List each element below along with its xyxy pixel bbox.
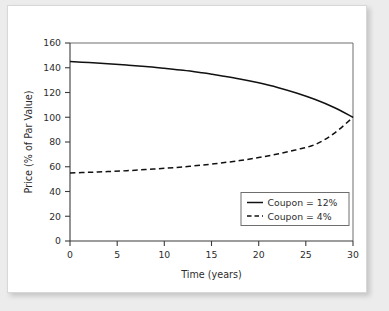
y-tick-label-160: 160 — [43, 37, 61, 48]
y-tick-label-140: 140 — [43, 62, 61, 73]
y-tick-label-20: 20 — [49, 211, 61, 222]
x-axis-title: Time (years) — [180, 269, 241, 280]
chart-legend[interactable]: Coupon = 12% Coupon = 4% — [241, 193, 349, 226]
y-tick-label-100: 100 — [43, 112, 61, 123]
x-tick-label-30: 30 — [347, 249, 359, 260]
x-tick-label-0: 0 — [67, 249, 73, 260]
y-axis-ticks — [65, 43, 70, 241]
y-axis-title: Price (% of Par Value) — [23, 91, 34, 194]
figure-card: 0 20 40 60 80 100 120 140 160 0 5 10 15 … — [7, 5, 367, 293]
x-tick-label-5: 5 — [114, 249, 120, 260]
series-line-coupon-12 — [70, 62, 353, 118]
y-tick-label-40: 40 — [49, 186, 61, 197]
x-axis-ticks — [70, 241, 353, 246]
x-tick-label-15: 15 — [206, 249, 218, 260]
series-line-coupon-4 — [70, 117, 353, 173]
y-tick-label-0: 0 — [55, 235, 61, 246]
legend-label-coupon-4: Coupon = 4% — [268, 211, 332, 222]
x-tick-label-10: 10 — [158, 249, 170, 260]
bond-price-chart: 0 20 40 60 80 100 120 140 160 0 5 10 15 … — [8, 6, 368, 294]
y-axis-tick-labels: 0 20 40 60 80 100 120 140 160 — [43, 37, 61, 246]
x-tick-label-20: 20 — [253, 249, 265, 260]
x-axis-tick-labels: 0 5 10 15 20 25 30 — [67, 249, 359, 260]
y-tick-label-80: 80 — [49, 136, 61, 147]
x-tick-label-25: 25 — [300, 249, 312, 260]
y-tick-label-60: 60 — [49, 161, 61, 172]
y-tick-label-120: 120 — [43, 87, 61, 98]
legend-label-coupon-12: Coupon = 12% — [268, 197, 338, 208]
